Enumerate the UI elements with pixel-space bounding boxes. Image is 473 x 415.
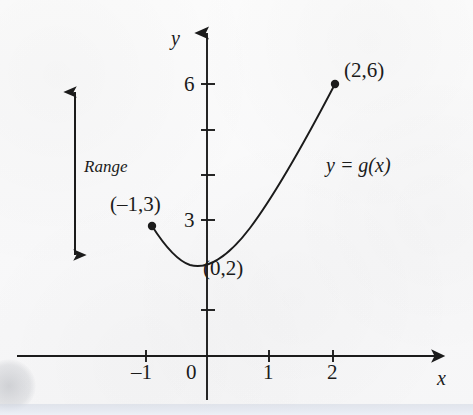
- range-annotation-label: Range: [84, 158, 127, 175]
- origin-label: 0: [186, 362, 197, 383]
- y-tick-label-6: 6: [184, 74, 195, 95]
- coordinate-plot: [0, 0, 473, 415]
- x-tick-label-neg1: –1: [131, 362, 152, 383]
- y-axis-label: y: [171, 28, 180, 48]
- x-tick-label-2: 2: [327, 362, 338, 383]
- x-axis-label: x: [437, 368, 446, 388]
- x-tick-label-1: 1: [263, 362, 274, 383]
- function-curve-g: [152, 84, 335, 266]
- point-label-left: (–1,3): [110, 194, 161, 215]
- point-label-min: (0,2): [203, 258, 243, 279]
- endpoint-dot-right: [331, 80, 339, 88]
- point-label-right: (2,6): [344, 60, 384, 81]
- x-axis: [17, 350, 443, 362]
- y-tick-label-3: 3: [184, 210, 195, 231]
- graph-figure: y x 0 –1 1 2 3 6 (–1,3) (2,6) (0,2) y = …: [0, 0, 473, 415]
- curve-equation-label: y = g(x): [326, 155, 391, 175]
- endpoint-dot-left: [148, 222, 156, 230]
- y-axis: [201, 33, 215, 400]
